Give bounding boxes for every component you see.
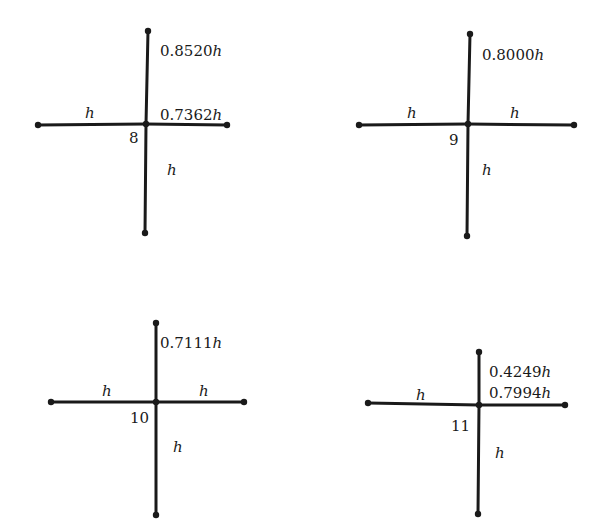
- stencil-10: 0.7111h h h h 10: [48, 320, 247, 518]
- h-symbol: h: [542, 384, 552, 402]
- node-dot: [464, 233, 470, 239]
- arm-right: [468, 124, 574, 125]
- node-dot: [571, 122, 577, 128]
- arm-right-coef: 0.7362: [160, 106, 213, 124]
- arm-left-label: h: [85, 104, 95, 122]
- node-dot: [356, 122, 362, 128]
- node-dot: [224, 122, 230, 128]
- center-node-dot: [153, 399, 159, 405]
- h-symbol: h: [213, 106, 223, 124]
- node-number: 9: [449, 131, 459, 149]
- arm-up: [468, 34, 470, 124]
- arm-up-coef: 0.4249: [489, 363, 542, 381]
- arm-right-label: h: [199, 382, 209, 400]
- h-symbol: h: [535, 46, 545, 64]
- node-dot: [467, 31, 473, 37]
- h-symbol: h: [542, 363, 552, 381]
- svg-text:0.7994h: 0.7994h: [489, 384, 551, 402]
- arm-down-label: h: [495, 444, 505, 462]
- center-node-dot: [143, 121, 149, 127]
- arm-down: [478, 405, 479, 514]
- svg-text:0.8520h: 0.8520h: [160, 42, 222, 60]
- node-dot: [476, 349, 482, 355]
- node-dot: [475, 511, 481, 517]
- node-number: 10: [130, 409, 149, 427]
- node-number: 11: [451, 417, 470, 435]
- arm-right-label: h: [510, 104, 520, 122]
- h-symbol: h: [213, 334, 223, 352]
- stencil-8: 0.8520h 0.7362h h h 8: [35, 28, 230, 236]
- arm-left-label: h: [407, 104, 417, 122]
- arm-left-label: h: [416, 386, 426, 404]
- arm-up-coef: 0.7111: [160, 334, 213, 352]
- arm-left: [359, 124, 468, 125]
- center-node-dot: [465, 121, 471, 127]
- arm-down: [145, 124, 146, 233]
- node-dot: [142, 230, 148, 236]
- arm-left: [38, 124, 146, 125]
- svg-text:0.8000h: 0.8000h: [482, 46, 544, 64]
- node-dot: [241, 399, 247, 405]
- arm-right: [146, 124, 227, 125]
- arm-right-coef: 0.7994: [489, 384, 542, 402]
- node-dot: [153, 512, 159, 518]
- arm-left-label: h: [102, 382, 112, 400]
- node-dot: [562, 402, 568, 408]
- svg-text:0.4249h: 0.4249h: [489, 363, 551, 381]
- center-node-dot: [476, 402, 482, 408]
- arm-down-label: h: [173, 438, 183, 456]
- stencil-9: 0.8000h h h h 9: [356, 31, 577, 239]
- node-number: 8: [129, 129, 139, 147]
- node-dot: [48, 399, 54, 405]
- svg-text:0.7111h: 0.7111h: [160, 334, 222, 352]
- arm-up-coef: 0.8000: [482, 46, 535, 64]
- arm-down: [467, 124, 468, 236]
- node-dot: [365, 400, 371, 406]
- node-dot: [153, 320, 159, 326]
- stencil-11: 0.4249h 0.7994h h h 11: [365, 349, 568, 517]
- arm-down-label: h: [482, 161, 492, 179]
- stencil-diagram: 0.8520h 0.7362h h h 8 0.8000h h h h 9 0.…: [0, 0, 594, 523]
- node-dot: [35, 122, 41, 128]
- arm-down-label: h: [167, 161, 177, 179]
- svg-text:0.7362h: 0.7362h: [160, 106, 222, 124]
- arm-up-coef: 0.8520: [160, 42, 213, 60]
- node-dot: [145, 28, 151, 34]
- arm-up: [146, 31, 148, 124]
- h-symbol: h: [213, 42, 223, 60]
